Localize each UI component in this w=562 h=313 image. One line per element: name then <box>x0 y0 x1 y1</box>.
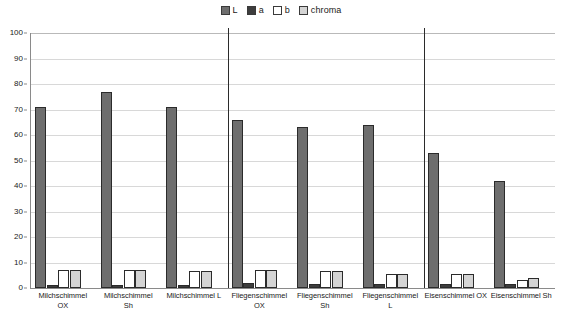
y-axis-tick-mark <box>24 160 27 161</box>
y-axis-tick-mark <box>24 288 27 289</box>
y-axis-tick-label: 20 <box>14 233 23 241</box>
y-axis-tick-mark <box>24 262 27 263</box>
group-separators <box>31 33 555 288</box>
chart-legend: Labchroma <box>0 2 562 18</box>
y-axis-tick-mark <box>24 58 27 59</box>
y-axis-tick-label: 40 <box>14 182 23 190</box>
y-axis-tick-mark <box>24 211 27 212</box>
bar-chart: Labchroma 0102030405060708090100 Milchsc… <box>0 0 562 313</box>
legend-swatch-a <box>247 6 256 15</box>
legend-label: b <box>285 6 290 15</box>
legend-entry: chroma <box>299 6 342 15</box>
y-axis-tick-label: 50 <box>14 157 23 165</box>
y-axis-tick-label: 60 <box>14 131 23 139</box>
legend-label: L <box>233 6 238 15</box>
legend-swatch-b <box>273 6 282 15</box>
y-axis-tick-mark <box>24 186 27 187</box>
y-axis-tick-mark <box>24 33 27 34</box>
x-axis-label-line: Sh <box>89 301 169 311</box>
y-axis: 0102030405060708090100 <box>0 33 27 288</box>
group-separator-line <box>228 28 229 288</box>
legend-label: chroma <box>311 6 342 15</box>
y-axis-tick-mark <box>24 84 27 85</box>
y-axis-tick-label: 80 <box>14 80 23 88</box>
legend-entry: L <box>221 6 238 15</box>
y-axis-tick-mark <box>24 237 27 238</box>
y-axis-tick-label: 10 <box>14 259 23 267</box>
y-axis-tick-label: 90 <box>14 55 23 63</box>
y-axis-tick-label: 70 <box>14 106 23 114</box>
x-axis-label-line: Eisenschimmel Sh <box>482 291 562 301</box>
legend-swatch-chroma <box>299 6 308 15</box>
group-separator-line <box>424 28 425 288</box>
x-axis-label-line: L <box>351 301 431 311</box>
y-axis-tick-label: 100 <box>10 29 23 37</box>
plot-area <box>30 33 555 289</box>
legend-swatch-l <box>221 6 230 15</box>
y-axis-tick-mark <box>24 109 27 110</box>
legend-entry: a <box>247 6 264 15</box>
legend-label: a <box>259 6 264 15</box>
x-axis-label: Eisenschimmel Sh <box>482 291 562 301</box>
y-axis-tick-label: 30 <box>14 208 23 216</box>
y-axis-tick-mark <box>24 135 27 136</box>
x-axis-labels: MilchschimmelOXMilchschimmelShMilchschim… <box>30 291 554 313</box>
legend-entry: b <box>273 6 290 15</box>
